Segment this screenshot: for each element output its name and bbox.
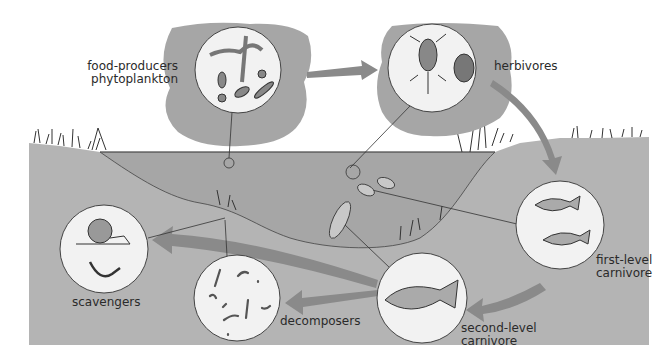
second-carnivore-label-line2: carnivore: [461, 335, 537, 348]
producers-label-line2: phytoplankton: [76, 73, 178, 86]
scavengers-circle: [60, 205, 148, 293]
second-carnivore-label: second-level carnivore: [461, 322, 537, 348]
first-carnivore-label: first-level carnivore: [596, 254, 652, 280]
herbivores-label: herbivores: [494, 60, 558, 73]
decomposers-label-line1: decomposers: [280, 315, 360, 328]
first-carnivore-label-line2: carnivore: [596, 267, 652, 280]
arrow-producers-to-herbivores: [307, 60, 378, 80]
scavengers-label-line1: scavengers: [72, 296, 140, 309]
herbivores-label-line1: herbivores: [494, 60, 558, 73]
producers-circle: [195, 27, 281, 113]
first-carnivore-circle: [516, 181, 604, 269]
producers-label: food-producers phytoplankton: [76, 60, 178, 86]
decomposers-circle: [194, 255, 280, 341]
decomposers-label: decomposers: [280, 315, 360, 328]
scavengers-label: scavengers: [72, 296, 140, 309]
